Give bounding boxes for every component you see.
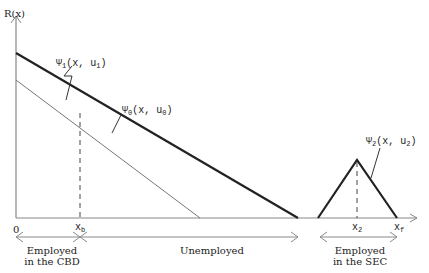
xb-tick-label: xb <box>75 222 85 236</box>
psi2-pointer <box>371 148 380 178</box>
zone-sec-line2: in the SEC <box>330 256 390 267</box>
psi0-curve <box>16 53 298 218</box>
psi1-label: Ψ1(x, u1) <box>56 58 106 72</box>
psi0-label: Ψ0(x, u0) <box>122 105 172 119</box>
zone-cbd-line2: in the CBD <box>22 256 82 267</box>
psi2-label: Ψ2(x, u2) <box>366 136 416 150</box>
zone-cbd-line1: Employed <box>22 245 82 256</box>
zone-cbd-label: Employed in the CBD <box>22 245 82 267</box>
zone-sec-label: Employed in the SEC <box>330 245 390 267</box>
xf-tick-label: xf <box>394 222 404 236</box>
psi1-curve <box>16 80 200 218</box>
psi0-pointer <box>112 115 121 133</box>
diagram-canvas <box>0 0 429 273</box>
zone-unemployed-label: Unemployed <box>180 245 244 256</box>
x2-tick-label: x2 <box>352 222 362 236</box>
y-axis-label: R(x) <box>4 8 25 19</box>
zone-sec-line1: Employed <box>330 245 390 256</box>
origin-label: 0 <box>13 224 19 235</box>
